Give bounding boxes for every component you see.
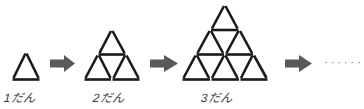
matchstick [197, 56, 209, 79]
matchstick [198, 31, 210, 53]
matchstick [212, 56, 224, 79]
matchstick [127, 56, 139, 79]
stage-2-triangle-group [85, 31, 140, 80]
arrow-right-icon [150, 55, 178, 72]
arrow-right-icon [285, 55, 312, 72]
matchstick [99, 56, 111, 79]
matchstick [100, 31, 112, 53]
stage-1-triangle-group [13, 54, 40, 80]
matchstick [227, 31, 239, 53]
figure-canvas: .stick { stroke: #1a1a1a; stroke-width: … [0, 0, 364, 109]
matchstick [226, 6, 238, 29]
matchstick [14, 54, 26, 79]
matchstick [184, 56, 196, 79]
pattern-diagram: .stick { stroke: #1a1a1a; stroke-width: … [0, 0, 364, 109]
stage-3-triangle-group [183, 6, 268, 80]
arrow-right-icon [50, 55, 75, 72]
matchstick [211, 31, 223, 53]
matchstick [86, 56, 98, 79]
matchstick [212, 6, 224, 29]
matchstick [226, 56, 238, 79]
stage-label-3: 3だん [200, 88, 233, 105]
matchstick [113, 31, 125, 53]
matchstick [114, 56, 126, 79]
matchstick [241, 56, 253, 79]
matchstick [254, 56, 267, 79]
stage-label-1: 1だん [3, 88, 36, 105]
stage-label-2: 2だん [92, 88, 125, 105]
continuation-ellipsis: ······ [324, 54, 363, 69]
matchstick [240, 31, 252, 53]
matchstick [27, 54, 39, 79]
